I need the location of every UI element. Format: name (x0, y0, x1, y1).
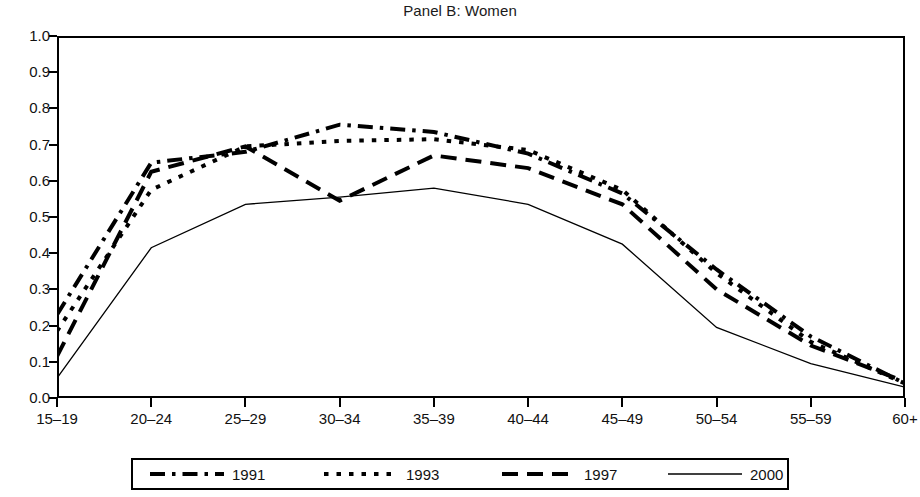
x-axis-tick-label: 35–39 (413, 410, 455, 428)
x-axis-tick-label: 50–54 (696, 410, 738, 428)
legend-entry-1991[interactable]: 1991 (149, 460, 265, 488)
chart-legend: 1991199319972000 (131, 458, 789, 490)
chart-figure: Panel B: Women 0.00.10.20.30.40.50.60.70… (0, 0, 920, 497)
x-axis-tick-mark (433, 398, 435, 407)
series-line-2000 (57, 188, 905, 387)
y-axis-tick-mark (49, 216, 57, 218)
legend-label-1993: 1993 (406, 467, 439, 482)
series-layer (57, 36, 905, 398)
y-axis-tick-mark (49, 107, 57, 109)
y-axis-tick-label: 0.3 (4, 281, 50, 296)
y-axis-tick-mark (49, 71, 57, 73)
y-axis-tick-label: 0.1 (4, 354, 50, 369)
x-axis-tick-mark (810, 398, 812, 407)
y-axis-tick-label: 0.0 (4, 390, 50, 405)
y-axis-tick-label: 0.4 (4, 245, 50, 260)
legend-entry-1993[interactable]: 1993 (323, 460, 439, 488)
y-axis-tick-label: 0.6 (4, 173, 50, 188)
x-axis-tick-label: 45–49 (601, 410, 643, 428)
y-axis-tick-label: 0.5 (4, 209, 50, 224)
legend-label-1991: 1991 (232, 467, 265, 482)
plot-area (57, 36, 905, 398)
y-axis-tick-label: 1.0 (4, 28, 50, 43)
x-axis-tick-label: 30–34 (319, 410, 361, 428)
legend-entries: 1991199319972000 (133, 460, 787, 488)
legend-label-2000: 2000 (750, 467, 783, 482)
x-axis-tick-mark (527, 398, 529, 407)
y-axis-tick-mark (49, 361, 57, 363)
x-axis-tick-label: 55–59 (790, 410, 832, 428)
legend-entry-1997[interactable]: 1997 (501, 460, 617, 488)
y-axis-tick-mark (49, 35, 57, 37)
series-line-1993 (57, 139, 905, 383)
chart-title: Panel B: Women (0, 2, 920, 19)
y-axis-tick-mark (49, 180, 57, 182)
series-line-1997 (57, 146, 905, 381)
x-axis-tick-mark (339, 398, 341, 407)
y-axis-tick-label: 0.8 (4, 100, 50, 115)
legend-line-sample-1997 (501, 467, 577, 481)
x-axis-tick-label: 40–44 (507, 410, 549, 428)
y-axis-tick-label: 0.7 (4, 137, 50, 152)
legend-line-sample-1991 (149, 467, 225, 481)
x-axis-tick-label: 60+ (892, 410, 917, 428)
legend-line-sample-2000 (667, 467, 743, 481)
y-axis-tick-label: 0.9 (4, 64, 50, 79)
legend-line-sample-1993 (323, 467, 399, 481)
y-axis-tick-label: 0.2 (4, 318, 50, 333)
y-axis-tick-mark (49, 288, 57, 290)
legend-label-1997: 1997 (584, 467, 617, 482)
y-axis-tick-mark (49, 325, 57, 327)
x-axis-tick-mark (150, 398, 152, 407)
y-axis-tick-mark (49, 144, 57, 146)
x-axis-tick-mark (56, 398, 58, 407)
x-axis-tick-mark (244, 398, 246, 407)
x-axis-tick-mark (904, 398, 906, 407)
x-axis-tick-label: 20–24 (130, 410, 172, 428)
x-axis-tick-mark (716, 398, 718, 407)
x-axis-tick-labels: 15–1920–2425–2930–3435–3940–4445–4950–54… (0, 410, 920, 436)
x-axis-tick-mark (621, 398, 623, 407)
x-axis-tick-label: 15–19 (36, 410, 78, 428)
legend-entry-2000[interactable]: 2000 (667, 460, 783, 488)
y-axis-tick-mark (49, 252, 57, 254)
x-axis-tick-label: 25–29 (225, 410, 267, 428)
